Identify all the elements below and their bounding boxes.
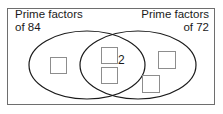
- intersection-value-label: 2: [118, 54, 125, 66]
- right-set-label: Prime factors of 72: [141, 8, 209, 34]
- answer-box[interactable]: [142, 75, 160, 93]
- venn-diagram-screenshot: Prime factors of 84 Prime factors of 72 …: [0, 0, 223, 114]
- answer-box[interactable]: [158, 51, 176, 69]
- right-set-label-line-1: Prime factors: [141, 8, 209, 21]
- answer-box[interactable]: [101, 47, 118, 64]
- left-set-label-line-2: of 84: [15, 21, 83, 34]
- right-set-label-line-2: of 72: [141, 21, 209, 34]
- answer-box[interactable]: [50, 57, 67, 74]
- left-set-label-line-1: Prime factors: [15, 8, 83, 21]
- answer-box[interactable]: [101, 67, 118, 84]
- left-set-label: Prime factors of 84: [15, 8, 83, 34]
